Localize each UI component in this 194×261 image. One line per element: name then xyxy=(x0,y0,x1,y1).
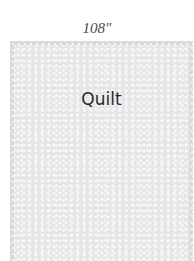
quilt-fabric-pattern xyxy=(14,45,189,261)
quilt-panel: Quilt xyxy=(10,41,193,261)
width-dimension-label: 108" xyxy=(0,20,194,36)
quilt-label: Quilt xyxy=(10,89,193,109)
